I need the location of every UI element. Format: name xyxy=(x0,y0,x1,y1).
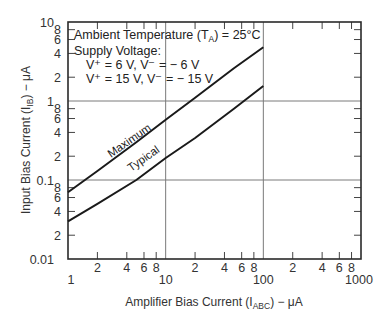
annotation-supply-6v: V⁺ = 6 V, V⁻ = − 6 V xyxy=(86,58,200,72)
annotation-supply-voltage: Supply Voltage: xyxy=(74,44,161,58)
x-tick-label: 4 xyxy=(221,261,228,275)
y-tick-label: 8 xyxy=(54,102,61,116)
x-tick-label: 10 xyxy=(159,273,173,287)
x-tick-label: 2 xyxy=(94,261,101,275)
y-tick-label: 4 xyxy=(54,47,61,61)
y-tick-label: 4 xyxy=(54,126,61,140)
y-tick-label: 10 xyxy=(40,16,54,30)
x-tick-label: 6 xyxy=(141,261,148,275)
y-tick-label: 4 xyxy=(54,205,61,219)
y-tick-label: 2 xyxy=(54,229,61,243)
y-axis-title: Input Bias Current (IIB) − μA xyxy=(19,66,35,214)
y-tick-label: 0.1 xyxy=(37,174,54,188)
x-tick-label: 2 xyxy=(289,261,296,275)
x-tick-label: 4 xyxy=(123,261,130,275)
x-tick-label: 100 xyxy=(253,273,274,287)
y-tick-label: 8 xyxy=(54,181,61,195)
y-tick-labels: 0.0124680.124681246810 xyxy=(30,16,61,267)
y-tick-label: 1 xyxy=(47,95,54,109)
y-tick-label: 8 xyxy=(54,23,61,37)
bias-current-chart: 0.0124680.124681246810 12468102468100246… xyxy=(0,0,388,321)
x-tick-label: 2 xyxy=(192,261,199,275)
x-tick-label: 1 xyxy=(68,273,75,287)
y-tick-label: 2 xyxy=(54,71,61,85)
x-tick-label: 6 xyxy=(238,261,245,275)
x-tick-label: 1000 xyxy=(345,273,373,287)
x-tick-label: 4 xyxy=(319,261,326,275)
annotation-supply-15v: V⁺ = 15 V, V⁻ = − 15 V xyxy=(86,72,214,86)
x-tick-labels: 1246810246810024681000 xyxy=(68,261,373,287)
x-axis-title: Amplifier Bias Current (IABC) − μA xyxy=(125,295,302,311)
x-tick-label: 6 xyxy=(336,261,343,275)
annotation-temperature: Ambient Temperature (TA) = 25°C xyxy=(74,28,261,44)
y-tick-label: 0.01 xyxy=(30,253,54,267)
curve-label-typical: Typical xyxy=(125,143,161,173)
y-tick-label: 2 xyxy=(54,150,61,164)
